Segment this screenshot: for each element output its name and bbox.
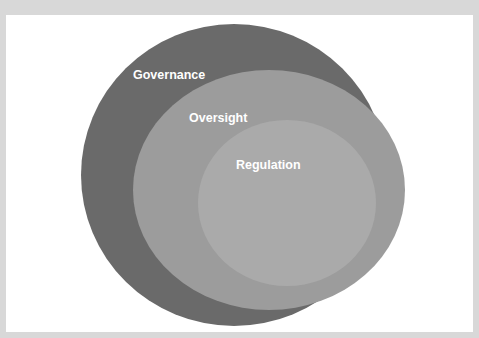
regulation-ellipse — [198, 120, 376, 286]
oversight-label: Oversight — [189, 111, 248, 125]
governance-label: Governance — [133, 68, 205, 82]
page-background: Governance Oversight Regulation — [0, 0, 479, 338]
nested-ellipse-diagram: Governance Oversight Regulation — [0, 0, 479, 338]
regulation-label: Regulation — [236, 158, 301, 172]
